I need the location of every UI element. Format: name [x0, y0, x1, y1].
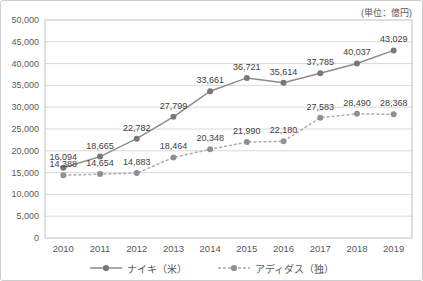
data-point-marker[interactable] — [354, 60, 360, 66]
legend-label-nike: ナイキ（米） — [127, 261, 187, 276]
data-label: 40,037 — [343, 47, 371, 57]
chart-legend: ナイキ（米） アディダス（独） — [1, 260, 422, 276]
x-axis-label: 2011 — [90, 243, 110, 254]
data-point-marker[interactable] — [317, 115, 323, 121]
data-point-marker[interactable] — [97, 171, 103, 177]
data-point-marker[interactable] — [391, 47, 397, 53]
x-axis-label: 2012 — [126, 243, 147, 254]
x-axis-label: 2018 — [346, 243, 367, 254]
data-point-marker[interactable] — [207, 88, 213, 94]
line-chart-plot: 05,00010,00015,00020,00025,00030,00035,0… — [1, 1, 423, 281]
data-label: 33,661 — [196, 75, 224, 85]
data-point-marker[interactable] — [391, 111, 397, 117]
legend-item-adidas[interactable]: アディダス（独） — [217, 261, 334, 276]
data-label: 28,490 — [343, 98, 371, 108]
data-label: 36,721 — [233, 62, 261, 72]
data-point-marker[interactable] — [244, 139, 250, 145]
data-label: 28,368 — [380, 98, 408, 108]
data-label: 18,665 — [86, 141, 114, 151]
legend-swatch-nike-icon — [89, 263, 123, 273]
data-label: 18,464 — [160, 141, 188, 151]
data-point-marker[interactable] — [134, 136, 140, 142]
data-label: 22,782 — [123, 123, 151, 133]
x-axis-label: 2010 — [53, 243, 74, 254]
data-point-marker[interactable] — [170, 114, 176, 120]
x-axis-label: 2013 — [163, 243, 184, 254]
data-point-marker[interactable] — [354, 111, 360, 117]
x-axis-label: 2016 — [273, 243, 294, 254]
y-tick-label: 35,000 — [11, 80, 39, 90]
legend-item-nike[interactable]: ナイキ（米） — [89, 261, 187, 276]
y-tick-label: 30,000 — [11, 102, 39, 112]
x-axis-label: 2017 — [310, 243, 331, 254]
y-tick-label: 10,000 — [11, 189, 39, 199]
x-axis-label: 2019 — [383, 243, 404, 254]
data-label: 14,388 — [50, 159, 78, 169]
y-tick-label: 50,000 — [11, 15, 39, 25]
y-tick-label: 5,000 — [16, 211, 39, 221]
y-tick-label: 25,000 — [11, 124, 39, 134]
data-label: 43,029 — [380, 34, 408, 44]
data-label: 37,785 — [306, 57, 334, 67]
data-point-marker[interactable] — [281, 138, 287, 144]
y-tick-label: 40,000 — [11, 59, 39, 69]
y-tick-label: 20,000 — [11, 146, 39, 156]
data-label: 20,348 — [196, 133, 224, 143]
legend-label-adidas: アディダス（独） — [255, 261, 334, 276]
data-label: 27,583 — [306, 102, 334, 112]
data-label: 35,614 — [270, 67, 298, 77]
data-point-marker[interactable] — [60, 172, 66, 178]
data-point-marker[interactable] — [244, 75, 250, 81]
y-tick-label: 0 — [34, 233, 39, 243]
data-point-marker[interactable] — [281, 80, 287, 86]
data-label: 21,990 — [233, 126, 261, 136]
x-axis-label: 2014 — [200, 243, 221, 254]
y-tick-label: 15,000 — [11, 168, 39, 178]
data-point-marker[interactable] — [134, 170, 140, 176]
data-label: 14,654 — [86, 158, 114, 168]
data-point-marker[interactable] — [170, 154, 176, 160]
data-point-marker[interactable] — [207, 146, 213, 152]
data-label: 14,883 — [123, 157, 151, 167]
x-axis-label: 2015 — [236, 243, 257, 254]
data-point-marker[interactable] — [317, 70, 323, 76]
legend-swatch-adidas-icon — [217, 263, 251, 273]
data-label: 27,799 — [160, 101, 188, 111]
chart-card: (単位：億円) 05,00010,00015,00020,00025,00030… — [0, 0, 423, 281]
y-tick-label: 45,000 — [11, 37, 39, 47]
data-label: 22,180 — [270, 125, 298, 135]
